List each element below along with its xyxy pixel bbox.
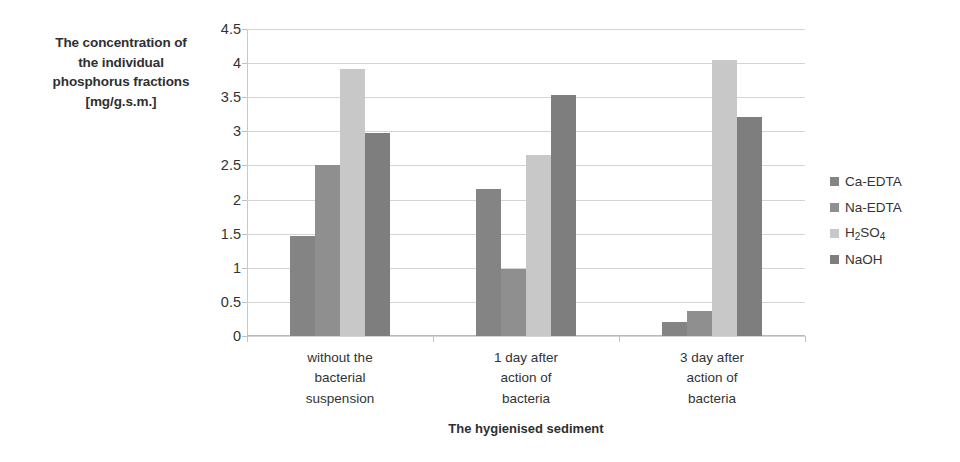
bar-chart: The concentration of the individual phos… — [0, 0, 960, 462]
y-axis-tickmark — [242, 29, 247, 30]
legend-label: Na-EDTA — [845, 200, 902, 215]
y-axis-tick-label: 1.5 — [221, 226, 241, 242]
legend-item-ca-edta[interactable]: Ca-EDTA — [830, 168, 902, 194]
y-axis-tickmark — [242, 200, 247, 201]
legend: Ca-EDTANa-EDTAH2SO4NaOH — [830, 168, 902, 272]
y-axis-title-line-3: phosphorus fractions — [26, 72, 216, 92]
y-axis-line — [247, 29, 248, 336]
y-axis-tick-label: 1 — [233, 260, 241, 276]
legend-item-h2so4[interactable]: H2SO4 — [830, 220, 902, 246]
y-axis-tick-labels: 4.543.532.521.510.50 — [205, 29, 241, 336]
bar-na-edta-cat2 — [501, 269, 526, 336]
y-axis-tickmark — [242, 97, 247, 98]
bar-ca-edta-cat2 — [476, 189, 501, 336]
x-axis-category-label-line: 3 day after — [619, 348, 805, 368]
bar-na-edta-cat3 — [687, 311, 712, 336]
y-axis-tick-label: 2 — [233, 192, 241, 208]
legend-label: Ca-EDTA — [845, 174, 902, 189]
y-axis-tick-label: 0.5 — [221, 294, 241, 310]
plot-area — [247, 29, 805, 336]
y-axis-title-line-1: The concentration of — [26, 33, 216, 53]
x-axis-category-label-line: bacteria — [619, 389, 805, 409]
bar-h2so4-cat2 — [526, 155, 551, 336]
legend-swatch-icon — [830, 255, 839, 264]
bar-na-edta-cat1 — [315, 165, 340, 336]
y-axis-tickmark — [242, 63, 247, 64]
y-axis-tickmark — [242, 234, 247, 235]
x-axis-category-separator — [619, 336, 620, 342]
y-axis-title-line-2: the individual — [26, 53, 216, 73]
gridline — [247, 336, 805, 337]
x-axis-category-label-2: 1 day afteraction ofbacteria — [433, 348, 619, 409]
x-axis-title: The hygienised sediment — [247, 421, 805, 436]
legend-swatch-icon — [830, 177, 839, 186]
bar-h2so4-cat1 — [340, 69, 365, 336]
y-axis-title-line-4: [mg/g.s.m.] — [26, 92, 216, 112]
bar-h2so4-cat3 — [712, 60, 737, 336]
bar-naoh-cat2 — [551, 95, 576, 336]
y-axis-tickmark — [242, 131, 247, 132]
legend-label: NaOH — [845, 252, 883, 267]
y-axis-tick-label: 0 — [233, 328, 241, 344]
bar-naoh-cat1 — [365, 133, 390, 336]
y-axis-tickmark — [242, 268, 247, 269]
x-axis-category-label-line: action of — [433, 368, 619, 388]
y-axis-tickmark — [242, 302, 247, 303]
x-axis-category-label-line: bacteria — [433, 389, 619, 409]
bar-ca-edta-cat1 — [290, 236, 315, 336]
bar-ca-edta-cat3 — [662, 322, 687, 336]
y-axis-tick-label: 3.5 — [221, 89, 241, 105]
legend-label: H2SO4 — [845, 225, 885, 242]
legend-swatch-icon — [830, 203, 839, 212]
x-axis-category-label-3: 3 day afteraction ofbacteria — [619, 348, 805, 409]
x-axis-category-label-line: suspension — [247, 389, 433, 409]
y-axis-tickmark — [242, 165, 247, 166]
bar-naoh-cat3 — [737, 117, 762, 336]
y-axis-tick-label: 2.5 — [221, 157, 241, 173]
x-axis-category-label-line: action of — [619, 368, 805, 388]
y-axis-tick-label: 4.5 — [221, 21, 241, 37]
y-axis-tick-label: 3 — [233, 123, 241, 139]
x-axis-category-separator — [247, 336, 248, 342]
x-axis-category-label-line: 1 day after — [433, 348, 619, 368]
y-axis-title: The concentration of the individual phos… — [26, 33, 216, 111]
x-axis-category-separator — [805, 336, 806, 342]
x-axis-category-label-line: bacterial — [247, 368, 433, 388]
legend-swatch-icon — [830, 229, 839, 238]
legend-item-naoh[interactable]: NaOH — [830, 246, 902, 272]
x-axis-category-label-1: without thebacterialsuspension — [247, 348, 433, 409]
x-axis-category-label-line: without the — [247, 348, 433, 368]
gridline — [247, 29, 805, 30]
x-axis-category-separator — [433, 336, 434, 342]
legend-item-na-edta[interactable]: Na-EDTA — [830, 194, 902, 220]
y-axis-tick-label: 4 — [233, 55, 241, 71]
